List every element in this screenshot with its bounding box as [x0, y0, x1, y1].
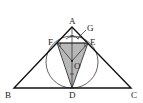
label-c: C [131, 90, 137, 100]
geometry-diagram: A G F E O B D C [0, 0, 143, 103]
label-a: A [69, 16, 76, 26]
label-o: O [74, 61, 81, 71]
label-f: F [48, 37, 53, 47]
label-b: B [5, 90, 11, 100]
point-o [71, 60, 73, 62]
label-g: G [87, 23, 94, 33]
label-e: E [90, 37, 96, 47]
label-d: D [69, 90, 76, 100]
shaded-triangle-def [57, 43, 88, 88]
